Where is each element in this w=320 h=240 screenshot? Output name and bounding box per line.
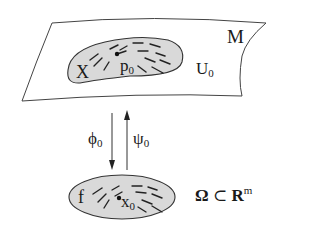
arrow-psi0 <box>124 110 130 170</box>
manifold-label: M <box>227 27 244 46</box>
vector-field-f-label: f <box>78 188 84 206</box>
point-p0-dot <box>115 52 119 56</box>
map-psi0-label: ψ0 <box>133 130 149 149</box>
arrow-phi0 <box>109 113 115 170</box>
point-x0-label: x0 <box>121 193 135 212</box>
map-phi0-label: ϕ0 <box>88 130 102 149</box>
vector-field-x-label: X <box>76 63 89 81</box>
point-p0-label: p0 <box>120 57 134 76</box>
chart-domain-label: U0 <box>196 60 214 79</box>
omega-subset-label: Ω ⊂ Rm <box>195 185 252 204</box>
